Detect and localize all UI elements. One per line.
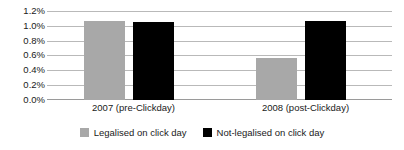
legend-swatch-icon — [80, 128, 89, 137]
plot-area — [47, 11, 392, 100]
bar-chart: 1.2% 1.0% 0.8% 0.6% 0.4% 0.2% 0.0% 2007 … — [0, 0, 404, 150]
y-axis-tick-label: 0.4% — [3, 65, 45, 75]
legend-item-label: Legalised on click day — [94, 128, 187, 138]
y-axis-tick-label: 0.0% — [3, 95, 45, 105]
bar-2008-legalised — [256, 58, 297, 100]
chart-legend: Legalised on click day Not-legalised on … — [0, 128, 404, 138]
legend-item-legalised: Legalised on click day — [80, 128, 187, 138]
y-axis-tick-label: 0.8% — [3, 36, 45, 46]
x-axis-tick-label: 2007 (pre-Clickday) — [62, 103, 205, 113]
y-axis-tick-label: 1.2% — [3, 6, 45, 16]
y-axis-tick-label: 0.6% — [3, 50, 45, 60]
legend-item-not-legalised: Not-legalised on click day — [203, 128, 325, 138]
legend-swatch-icon — [203, 128, 212, 137]
bar-2008-not-legalised — [305, 21, 346, 100]
gridline — [47, 11, 392, 12]
y-axis-tick-label: 0.2% — [3, 80, 45, 90]
x-axis-tick-label: 2008 (post-Clickday) — [234, 103, 377, 113]
y-axis-tick-label: 1.0% — [3, 21, 45, 31]
bar-2007-legalised — [84, 21, 125, 100]
bar-2007-not-legalised — [133, 22, 174, 100]
legend-item-label: Not-legalised on click day — [217, 128, 325, 138]
